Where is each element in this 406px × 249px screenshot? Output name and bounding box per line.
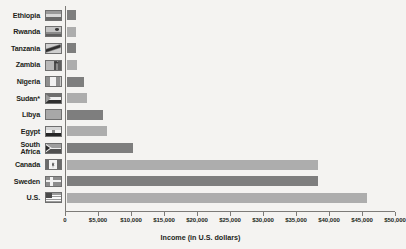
x-tick-label: $40,000	[318, 217, 340, 223]
category-label: Zambia	[0, 61, 43, 68]
chart-row: Zambia	[0, 57, 401, 74]
x-tick-label: 0	[63, 217, 66, 223]
bar	[67, 27, 76, 37]
flag-libya-icon	[45, 109, 62, 120]
flag-cell	[43, 26, 63, 37]
flag-cell	[43, 192, 63, 203]
flag-cell	[43, 10, 63, 21]
category-label: Tanzania	[0, 45, 43, 52]
x-axis-title: Income (in U.S. dollars)	[0, 233, 401, 242]
flag-nigeria-icon	[45, 76, 62, 87]
flag-united-states-icon	[45, 192, 62, 203]
x-tick-label: $30,000	[252, 217, 274, 223]
flag-sweden-icon	[45, 176, 62, 187]
flag-canada-icon	[45, 159, 62, 170]
bar-track	[63, 73, 401, 90]
bar	[67, 93, 87, 103]
flag-cell	[43, 43, 63, 54]
category-label: Sudan*	[0, 95, 43, 102]
bar	[67, 126, 107, 136]
chart-row: Sweden	[0, 173, 401, 190]
chart-row: SouthAfrica	[0, 140, 401, 157]
category-label: SouthAfrica	[0, 141, 43, 156]
category-label: Egypt	[0, 128, 43, 135]
bar	[67, 193, 367, 203]
x-tick	[65, 212, 66, 216]
flag-egypt-icon	[45, 126, 62, 137]
bar	[67, 10, 76, 20]
bar-track	[63, 123, 401, 140]
chart-row: Rwanda	[0, 24, 401, 41]
x-tick	[131, 212, 132, 216]
flag-ethiopia-icon	[45, 10, 62, 21]
category-label: U.S.	[0, 194, 43, 201]
bar-track	[63, 140, 401, 157]
flag-cell	[43, 176, 63, 187]
flag-sudan-icon	[45, 93, 62, 104]
category-label: Nigeria	[0, 78, 43, 85]
flag-cell	[43, 143, 63, 154]
x-tick-label: $5,000	[89, 217, 107, 223]
x-tick-label: $20,000	[186, 217, 208, 223]
x-tick-label: $35,000	[285, 217, 307, 223]
category-label: Ethiopia	[0, 12, 43, 19]
flag-cell	[43, 109, 63, 120]
bar	[67, 60, 77, 70]
bar	[67, 143, 133, 153]
chart-rows: EthiopiaRwandaTanzaniaZambiaNigeriaSudan…	[0, 0, 401, 210]
flag-tanzania-icon	[45, 43, 62, 54]
x-tick	[263, 212, 264, 216]
bar-track	[63, 7, 401, 24]
chart-row: Nigeria	[0, 73, 401, 90]
chart-row: Sudan*	[0, 90, 401, 107]
flag-cell	[43, 60, 63, 71]
chart-row: Egypt	[0, 123, 401, 140]
chart-row: Ethiopia	[0, 7, 401, 24]
bar-track	[63, 57, 401, 74]
x-tick	[98, 212, 99, 216]
bar	[67, 176, 318, 186]
category-label: Rwanda	[0, 28, 43, 35]
x-tick-label: $25,000	[219, 217, 241, 223]
x-tick	[296, 212, 297, 216]
x-tick	[230, 212, 231, 216]
flag-cell	[43, 126, 63, 137]
chart-row: Tanzania	[0, 40, 401, 57]
bar	[67, 43, 76, 53]
bar-track	[63, 107, 401, 124]
bar	[67, 110, 103, 120]
x-tick	[329, 212, 330, 216]
category-label: Sweden	[0, 178, 43, 185]
flag-cell	[43, 159, 63, 170]
chart-row: Libya	[0, 107, 401, 124]
x-tick	[197, 212, 198, 216]
chart-row: U.S.	[0, 190, 401, 207]
bar-track	[63, 90, 401, 107]
bar-track	[63, 190, 401, 207]
x-tick-label: $50,000	[384, 217, 406, 223]
bar-track	[63, 173, 401, 190]
x-tick-label: $10,000	[120, 217, 142, 223]
flag-zambia-icon	[45, 60, 62, 71]
x-tick-label: $45,000	[351, 217, 373, 223]
x-tick	[362, 212, 363, 216]
category-label: Libya	[0, 111, 43, 118]
flag-cell	[43, 76, 63, 87]
chart-row: Canada	[0, 156, 401, 173]
x-tick	[395, 212, 396, 216]
x-tick	[164, 212, 165, 216]
bar	[67, 160, 318, 170]
bar-track	[63, 24, 401, 41]
bar	[67, 77, 84, 87]
flag-south-africa-icon	[45, 143, 62, 154]
bar-track	[63, 156, 401, 173]
x-tick-label: $15,000	[153, 217, 175, 223]
flag-cell	[43, 93, 63, 104]
bar-track	[63, 40, 401, 57]
flag-rwanda-icon	[45, 26, 62, 37]
category-label: Canada	[0, 161, 43, 168]
